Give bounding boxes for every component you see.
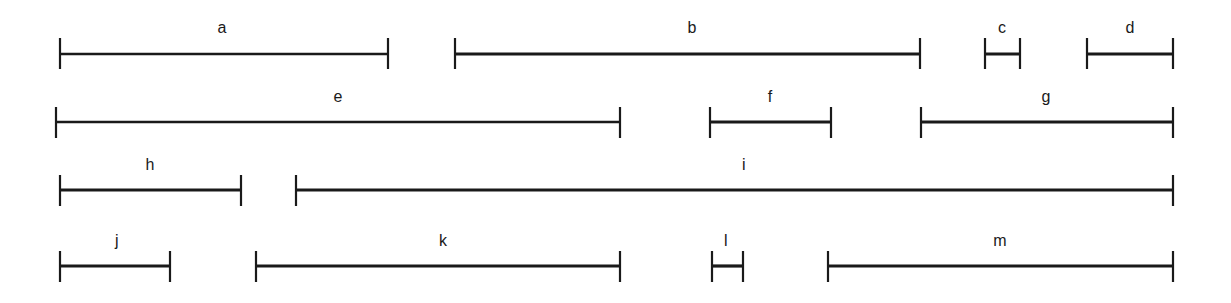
segment-e	[56, 107, 620, 138]
segment-i	[296, 175, 1173, 206]
segment-label-b: b	[687, 20, 696, 36]
segment-label-c: c	[998, 20, 1006, 36]
segment-j	[60, 251, 170, 282]
segment-label-l: l	[724, 233, 728, 249]
segment-label-m: m	[993, 233, 1007, 249]
segment-b	[455, 38, 920, 69]
segment-l	[712, 251, 743, 282]
segment-label-g: g	[1041, 89, 1050, 105]
segment-label-i: i	[742, 157, 746, 173]
segment-label-j: j	[115, 233, 119, 249]
segment-m	[828, 251, 1173, 282]
segment-f	[710, 107, 831, 138]
diagram-canvas: abcdefghijklm	[0, 0, 1231, 303]
segment-c	[985, 38, 1020, 69]
segment-diagram-svg	[0, 0, 1231, 303]
segment-label-d: d	[1125, 20, 1134, 36]
segment-a	[60, 38, 388, 69]
segment-label-h: h	[145, 157, 154, 173]
segment-k	[256, 251, 620, 282]
segment-label-e: e	[333, 89, 342, 105]
segment-d	[1087, 38, 1173, 69]
segment-label-a: a	[217, 20, 226, 36]
segment-g	[921, 107, 1173, 138]
segment-h	[60, 175, 241, 206]
segment-label-k: k	[439, 233, 447, 249]
segment-label-f: f	[768, 89, 773, 105]
